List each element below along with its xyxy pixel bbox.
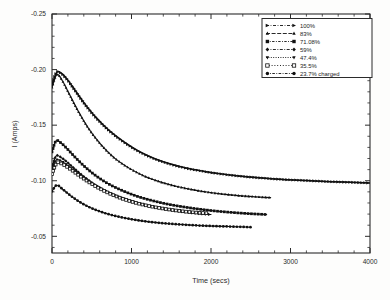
y-axis-title: I (Amps) xyxy=(10,120,19,147)
y-tick-label: -0.10 xyxy=(31,177,46,184)
y-tick-label: -0.15 xyxy=(31,121,46,128)
x-axis-tick-labels: 01000200030004000 xyxy=(50,258,378,265)
x-tick-label: 0 xyxy=(50,258,54,265)
x-tick-label: 2000 xyxy=(204,258,219,265)
x-axis-title: Time (secs) xyxy=(192,276,229,285)
x-tick-label: 3000 xyxy=(283,258,298,265)
current-vs-time-chart: 01000200030004000 -0.25-0.20-0.15-0.10-0… xyxy=(0,0,390,300)
legend-item-label: 71.08% xyxy=(300,39,321,45)
chart-legend: 100%83%71.08%59%47.4%35.5%23.7% charged xyxy=(262,19,372,78)
y-tick-label: -0.05 xyxy=(31,233,46,240)
figure-canvas: 01000200030004000 -0.25-0.20-0.15-0.10-0… xyxy=(0,0,390,300)
y-tick-label: -0.25 xyxy=(31,10,46,17)
legend-item-label: 47.4% xyxy=(300,55,317,61)
legend-item-label: 59% xyxy=(300,47,313,53)
y-tick-label: -0.20 xyxy=(31,66,46,73)
legend-item-label: 35.5% xyxy=(300,63,317,69)
legend-item-label: 100% xyxy=(300,23,316,29)
legend-item-label: 83% xyxy=(300,31,313,37)
y-axis-tick-labels: -0.25-0.20-0.15-0.10-0.05 xyxy=(31,10,46,239)
x-tick-label: 4000 xyxy=(363,258,378,265)
legend-box xyxy=(262,19,372,78)
x-tick-label: 1000 xyxy=(124,258,139,265)
legend-item-label: 23.7% charged xyxy=(300,71,340,77)
